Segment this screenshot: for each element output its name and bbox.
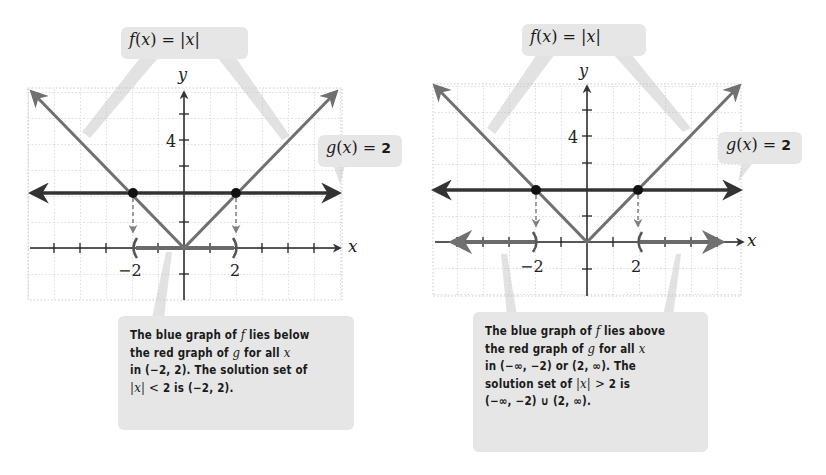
equals: = | — [557, 27, 586, 46]
f-var: x — [141, 30, 150, 49]
text: The blue graph of — [485, 324, 596, 338]
abs-bar: | — [595, 27, 600, 46]
text: solution set of — [485, 377, 576, 391]
greater-than: > — [591, 376, 609, 391]
text: the red graph of — [485, 342, 588, 356]
note-line-4: |x| < 2 is (−2, 2). — [130, 379, 342, 397]
g-var: x — [343, 138, 352, 157]
note-line-3: in (−∞, −2) or (2, ∞). The — [485, 358, 696, 375]
math-abs-x: |x| — [576, 376, 591, 391]
tick-label-y4: 4 — [166, 132, 176, 151]
text: 2 is — [609, 377, 630, 391]
less-than: < — [145, 380, 163, 395]
equals: = — [758, 135, 782, 154]
y-axis-label: y — [578, 61, 589, 80]
g-var: x — [743, 135, 752, 154]
note-line-2: the red graph of g for all x — [485, 340, 696, 358]
explanation-note: The blue graph of f lies above the red g… — [473, 312, 708, 452]
intersection-point-left — [128, 188, 138, 198]
note-line-5: (−∞, −2) ∪ (2, ∞). — [485, 393, 696, 410]
note-line-2: the red graph of g for all x — [130, 344, 342, 362]
tick-label-y4: 4 — [568, 128, 578, 147]
right-graph-panel: y x 4 −2 2 f(x) = |x| g(x) = 2 The blue … — [413, 0, 826, 475]
text: lies below — [245, 328, 309, 342]
g-value: 2 — [781, 137, 791, 153]
math-x: x — [639, 341, 646, 356]
g-function-label: g(x) = 2 — [718, 132, 802, 164]
g-function-label: g(x) = 2 — [318, 135, 402, 167]
f-function-label: f(x) = |x| — [121, 27, 248, 59]
tick-label-xpos2: 2 — [631, 257, 641, 276]
text: for all — [240, 346, 283, 360]
math-x: x — [284, 345, 291, 360]
note-line-1: The blue graph of f lies above — [485, 322, 696, 340]
g-value: 2 — [381, 140, 391, 156]
equals: = — [358, 138, 382, 157]
abs-bar: | — [194, 30, 199, 49]
text: for all — [595, 342, 638, 356]
g-name: g — [726, 135, 736, 154]
equals: = | — [156, 30, 185, 49]
x-axis-label: x — [747, 230, 757, 250]
note-line-1: The blue graph of f lies below — [130, 326, 342, 344]
explanation-note: The blue graph of f lies below the red g… — [118, 316, 354, 430]
tick-label-xpos2: 2 — [230, 261, 240, 280]
tick-label-xneg2: −2 — [520, 257, 544, 276]
text: the red graph of — [130, 346, 233, 360]
text: lies above — [600, 324, 665, 338]
math-abs-x: |x| — [130, 380, 145, 395]
g-name: g — [326, 138, 336, 157]
intersection-point-right — [633, 185, 643, 195]
left-graph-panel: y x 4 −2 2 f(x) = |x| g(x) = 2 The blue … — [0, 0, 413, 475]
intersection-point-left — [531, 185, 541, 195]
text: 2 is (−2, 2). — [163, 381, 234, 395]
x-axis-label: x — [348, 236, 358, 256]
text: The blue graph of — [130, 328, 241, 342]
intersection-point-right — [231, 188, 241, 198]
y-axis-label: y — [177, 65, 188, 84]
f-var: x — [542, 27, 551, 46]
note-line-4: solution set of |x| > 2 is — [485, 375, 696, 393]
tick-label-xneg2: −2 — [118, 261, 142, 280]
f-function-label: f(x) = |x| — [522, 24, 646, 56]
note-line-3: in (−2, 2). The solution set of — [130, 362, 342, 379]
